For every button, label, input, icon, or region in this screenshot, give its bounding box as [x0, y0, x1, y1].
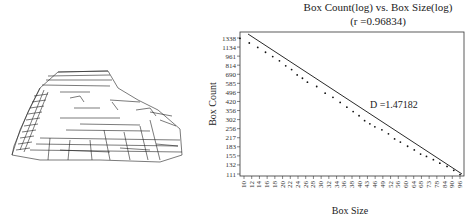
data-point [346, 106, 348, 108]
fractal-dimension-annotation: D =1.47182 [370, 99, 418, 110]
y-tick-label: 132 [226, 161, 237, 169]
data-point [381, 129, 383, 131]
y-tick-label: 420 [226, 98, 237, 106]
x-axis-ticks: 1012141618202224262830323436384043464952… [240, 176, 464, 188]
data-point [316, 86, 318, 88]
data-point [302, 77, 304, 79]
y-tick-label: 496 [226, 89, 237, 97]
fit-line [248, 34, 462, 174]
y-tick-label: 302 [226, 116, 237, 124]
data-point [248, 42, 250, 44]
data-point [364, 120, 366, 122]
data-point [307, 81, 309, 83]
x-tick-label: 96 [456, 181, 464, 189]
data-point [339, 102, 341, 104]
y-tick-label: 217 [226, 134, 237, 142]
data-point [257, 47, 259, 49]
y-axis-label: Box Count [207, 82, 218, 126]
data-point [394, 138, 396, 140]
y-tick-label: 256 [226, 125, 237, 133]
data-point [279, 60, 281, 62]
data-point [291, 69, 293, 71]
data-point [407, 145, 409, 147]
data-point [358, 115, 360, 117]
data-point [352, 111, 354, 113]
data-point [432, 159, 434, 161]
y-tick-label: 814 [226, 62, 237, 70]
data-point [426, 156, 428, 158]
box-count-chart: Box Count(log) vs. Box Size(log) (r =0.9… [0, 0, 474, 221]
data-point [272, 56, 274, 58]
y-tick-label: 961 [226, 53, 237, 61]
data-point [439, 162, 441, 164]
chart-title: Box Count(log) vs. Box Size(log) [304, 1, 453, 14]
data-point [374, 126, 376, 128]
y-tick-label: 690 [226, 71, 237, 79]
y-tick-label: 183 [226, 143, 237, 151]
data-point [332, 96, 334, 98]
y-tick-label: 585 [226, 80, 237, 88]
data-point [296, 74, 298, 76]
data-point [388, 133, 390, 135]
data-point [420, 153, 422, 155]
y-tick-label: 356 [226, 107, 237, 115]
data-point [446, 166, 448, 168]
data-point [459, 174, 461, 176]
plot-frame [240, 32, 464, 176]
data-point [399, 141, 401, 143]
y-axis-ticks: 1338113496181469058549642035630225621718… [222, 35, 240, 179]
data-point [453, 169, 455, 171]
chart-subtitle: (r =0.96834) [350, 15, 406, 28]
data-point [413, 149, 415, 151]
y-tick-label: 1134 [222, 44, 236, 52]
data-point [239, 37, 241, 39]
data-point [285, 65, 287, 67]
x-axis-label: Box Size [332, 205, 369, 216]
data-point [324, 92, 326, 94]
y-tick-label: 1338 [222, 35, 237, 43]
y-tick-label: 155 [226, 152, 237, 160]
y-tick-label: 111 [226, 171, 236, 179]
data-point [265, 51, 267, 53]
data-point [369, 123, 371, 125]
data-points [239, 37, 461, 175]
